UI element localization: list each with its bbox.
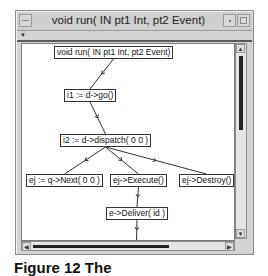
graph-node[interactable]: i1 := d->go() (64, 89, 116, 102)
graph-node[interactable]: ej->Execute() (110, 174, 167, 187)
window-menu-button[interactable] (19, 14, 32, 27)
title-bar[interactable]: void run( IN pt1 Int, pt2 Event) (17, 12, 252, 31)
scroll-down-icon[interactable]: ▼ (236, 229, 245, 238)
caret-down-icon[interactable]: ▼ (20, 32, 26, 38)
minimize-button[interactable] (223, 14, 236, 27)
scroll-corner (236, 241, 247, 251)
maximize-button[interactable] (237, 14, 250, 27)
scroll-right-icon[interactable]: ▶ (225, 242, 234, 251)
scroll-up-icon[interactable]: ▲ (236, 44, 245, 53)
horizontal-scroll-thumb[interactable] (33, 245, 169, 248)
graph-window: void run( IN pt1 Int, pt2 Event) ▼ void … (15, 10, 254, 255)
graph-node[interactable]: e->Deliver( id ) (106, 207, 168, 220)
menu-bar: ▼ (17, 31, 252, 42)
scroll-left-icon[interactable]: ◀ (22, 242, 31, 251)
figure-caption: Figure 12 The (14, 259, 112, 276)
vertical-scroll-thumb[interactable] (239, 56, 243, 130)
window-title: void run( IN pt1 Int, pt2 Event) (37, 14, 220, 26)
graph-node[interactable]: ej->Destroy() (179, 174, 234, 187)
graph-canvas: void run( IN pt1 Int, pt2 Event) i1 := d… (21, 43, 235, 241)
graph-node[interactable]: void run( IN pt1 Int, pt2 Event) (54, 46, 173, 59)
vertical-scrollbar[interactable]: ▲ ▼ (235, 43, 247, 239)
horizontal-scrollbar[interactable]: ◀ ▶ (21, 241, 235, 251)
graph-node[interactable]: ej := q->Next( 0 0 ) (26, 174, 103, 187)
graph-node[interactable]: i2 := d->dispatch( 0 0 ) (60, 134, 151, 147)
